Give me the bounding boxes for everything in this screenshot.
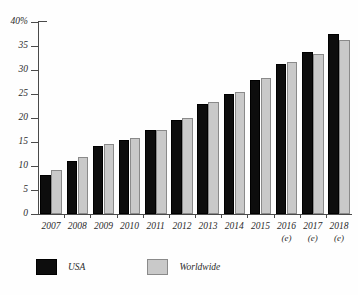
x-axis-label-2014: 2014: [221, 220, 247, 232]
bar-usa-2018: [328, 34, 339, 214]
bar-worldwide-2007: [51, 170, 62, 214]
x-axis-label-2016: 2016(e): [274, 220, 300, 244]
x-axis-label-2007: 2007: [38, 220, 64, 232]
x-axis-separator: [117, 214, 118, 218]
y-axis-tick-label: 10: [19, 159, 29, 171]
bar-usa-2012: [171, 120, 182, 214]
chart-legend: USAWorldwide: [36, 259, 220, 275]
y-axis-tick-label: 25: [19, 87, 29, 99]
x-axis-label-2015: 2015: [247, 220, 273, 232]
x-axis-label-year: 2011: [147, 221, 165, 231]
x-axis-label-2018: 2018(e): [326, 220, 352, 244]
bar-group: [197, 22, 219, 214]
plot-area: [38, 22, 352, 214]
x-axis-separator: [326, 214, 327, 218]
bar-usa-2016: [276, 64, 287, 214]
x-axis-label-year: 2013: [199, 221, 218, 231]
bar-worldwide-2017: [313, 54, 324, 214]
x-axis-label-2009: 2009: [90, 220, 116, 232]
legend-label-usa: USA: [68, 262, 85, 272]
y-axis-tick-label: 0: [23, 207, 28, 219]
bar-usa-2013: [197, 104, 208, 214]
x-axis-label-2017: 2017(e): [300, 220, 326, 244]
bar-group: [171, 22, 193, 214]
x-axis-separator: [90, 214, 91, 218]
bar-usa-2009: [93, 146, 104, 214]
legend-swatch-worldwide: [147, 259, 168, 275]
bar-group: [276, 22, 298, 214]
x-axis-label-year: 2016: [277, 221, 296, 231]
bar-group: [302, 22, 324, 214]
legend-swatch-usa: [36, 259, 57, 275]
bar-group: [145, 22, 167, 214]
y-axis-tick-label: 15: [19, 135, 29, 147]
x-axis-separator: [64, 214, 65, 218]
bar-worldwide-2015: [261, 78, 272, 214]
y-axis-tick-label: 20: [19, 111, 29, 123]
bar-group: [93, 22, 115, 214]
x-axis-label-estimate: (e): [300, 232, 326, 244]
legend-label-worldwide: Worldwide: [179, 262, 220, 272]
bar-usa-2008: [67, 161, 78, 214]
bar-worldwide-2016: [287, 62, 298, 214]
bar-worldwide-2009: [104, 144, 115, 214]
x-axis-separator: [143, 214, 144, 218]
x-axis-label-year: 2017: [303, 221, 322, 231]
y-axis-tick: 0: [31, 214, 39, 215]
x-axis-separator: [300, 214, 301, 218]
bar-usa-2014: [224, 94, 235, 214]
x-axis-label-year: 2009: [94, 221, 113, 231]
x-axis-separator: [169, 214, 170, 218]
y-axis-tick-label: 30: [19, 63, 29, 75]
y-axis-tick-label: 35: [19, 39, 29, 51]
x-axis-label-2011: 2011: [143, 220, 169, 232]
x-axis-separator: [247, 214, 248, 218]
x-axis-label-2013: 2013: [195, 220, 221, 232]
bar-worldwide-2014: [235, 92, 246, 214]
bar-group: [40, 22, 62, 214]
bar-worldwide-2013: [208, 102, 219, 214]
bar-usa-2015: [250, 80, 261, 214]
bar-usa-2017: [302, 52, 313, 214]
bar-group: [119, 22, 141, 214]
y-axis-tick-label: 5: [23, 183, 28, 195]
bar-worldwide-2008: [78, 157, 89, 214]
x-axis-label-year: 2010: [120, 221, 139, 231]
x-axis-separator: [274, 214, 275, 218]
x-axis-label-2010: 2010: [117, 220, 143, 232]
bar-group: [328, 22, 350, 214]
x-axis-label-year: 2007: [42, 221, 61, 231]
y-axis-tick-mark: [31, 214, 39, 215]
x-axis-label-2012: 2012: [169, 220, 195, 232]
x-axis-label-2008: 2008: [64, 220, 90, 232]
bar-usa-2011: [145, 130, 156, 214]
x-axis-label-year: 2008: [68, 221, 87, 231]
bar-worldwide-2010: [130, 138, 141, 214]
x-axis-label-year: 2015: [251, 221, 270, 231]
x-axis-separator: [221, 214, 222, 218]
x-axis-label-year: 2014: [225, 221, 244, 231]
x-axis-label-year: 2018: [329, 221, 348, 231]
legend-item-usa: USA: [36, 259, 85, 275]
x-axis-label-year: 2012: [172, 221, 191, 231]
bar-usa-2007: [40, 175, 51, 214]
bar-chart: 0510152025303540% 2007200820092010201120…: [0, 0, 358, 295]
x-axis-label-estimate: (e): [326, 232, 352, 244]
bar-worldwide-2012: [182, 118, 193, 214]
bar-group: [250, 22, 272, 214]
x-axis-label-estimate: (e): [274, 232, 300, 244]
bar-usa-2010: [119, 140, 130, 214]
legend-item-worldwide: Worldwide: [147, 259, 220, 275]
bar-worldwide-2011: [156, 130, 167, 214]
x-axis-separator: [195, 214, 196, 218]
bar-group: [67, 22, 89, 214]
bar-group: [224, 22, 246, 214]
y-axis-tick-label: 40%: [11, 15, 28, 27]
bar-worldwide-2018: [339, 40, 350, 214]
